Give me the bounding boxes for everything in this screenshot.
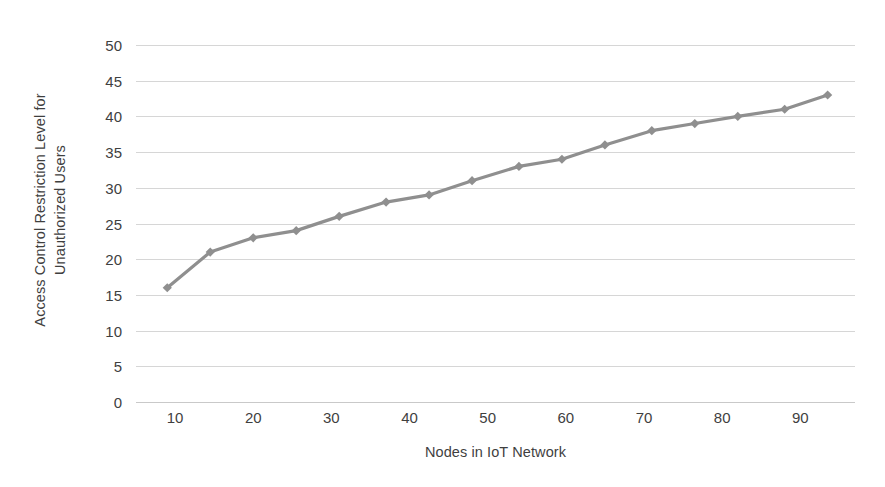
x-axis-title: Nodes in IoT Network <box>136 443 855 461</box>
y-tick-label-40: 40 <box>84 109 122 124</box>
data-point-3 <box>292 226 301 235</box>
y-axis-tick-labels: 05101520253035404550 <box>84 38 122 404</box>
y-tick-label-20: 20 <box>84 252 122 267</box>
series-line-group <box>136 45 855 402</box>
y-tick-label-0: 0 <box>84 395 122 410</box>
x-axis-tick-labels: 102030405060708090 <box>0 409 885 431</box>
y-tick-label-25: 25 <box>84 216 122 231</box>
y-tick-label-45: 45 <box>84 73 122 88</box>
y-tick-label-35: 35 <box>84 145 122 160</box>
x-tick-label-20: 20 <box>228 409 278 427</box>
x-tick-label-60: 60 <box>541 409 591 427</box>
y-axis-title-line-1: Access Control Restriction Level for <box>30 93 50 326</box>
data-point-8 <box>514 162 523 171</box>
data-point-14 <box>780 105 789 114</box>
y-tick-label-10: 10 <box>84 323 122 338</box>
x-tick-label-10: 10 <box>150 409 200 427</box>
data-point-12 <box>690 119 699 128</box>
data-point-7 <box>467 176 476 185</box>
data-point-6 <box>424 190 433 199</box>
x-tick-label-80: 80 <box>697 409 747 427</box>
x-tick-label-40: 40 <box>385 409 435 427</box>
x-tick-label-30: 30 <box>306 409 356 427</box>
series-markers <box>163 90 833 292</box>
data-point-5 <box>381 197 390 206</box>
data-point-10 <box>600 140 609 149</box>
y-tick-label-5: 5 <box>84 359 122 374</box>
x-tick-label-70: 70 <box>619 409 669 427</box>
y-tick-label-50: 50 <box>84 38 122 53</box>
series-line <box>167 95 827 288</box>
y-tick-label-30: 30 <box>84 180 122 195</box>
data-point-13 <box>733 112 742 121</box>
data-point-15 <box>823 90 832 99</box>
y-tick-label-15: 15 <box>84 287 122 302</box>
gridline-y-0 <box>136 402 855 403</box>
y-axis-title-text: Access Control Restriction Level for Una… <box>30 93 70 326</box>
plot-area <box>136 45 855 402</box>
data-point-4 <box>335 212 344 221</box>
y-axis-title-line-2: Unauthorized Users <box>50 93 70 326</box>
x-tick-label-90: 90 <box>775 409 825 427</box>
data-point-2 <box>249 233 258 242</box>
line-chart: Access Control Restriction Level for Una… <box>0 0 885 487</box>
data-point-9 <box>557 155 566 164</box>
x-tick-label-50: 50 <box>463 409 513 427</box>
data-point-11 <box>647 126 656 135</box>
